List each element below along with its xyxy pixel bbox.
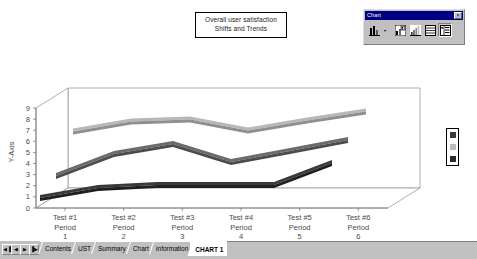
y-tick-label: 8 xyxy=(26,115,30,124)
chart-type-icon xyxy=(369,25,380,36)
x-tick-label: 4 xyxy=(239,232,243,239)
chart-toolbar-titlebar[interactable]: Chart × xyxy=(365,11,463,20)
y-tick-label: 2 xyxy=(26,181,30,190)
sheet-tab-label: Chart xyxy=(133,245,149,252)
y-tick-label: 4 xyxy=(26,159,30,168)
x-tick-label: 1 xyxy=(63,232,67,239)
sheet-nav-buttons: ◀▐ ◀ ▶ ▐▶ xyxy=(0,241,38,255)
y-tick-label: 1 xyxy=(26,192,30,201)
x-tick-label: 2 xyxy=(122,232,126,239)
chart-type-dropdown-arrow[interactable]: ▾ xyxy=(382,23,387,37)
x-tick-label: Period xyxy=(171,223,193,232)
by-column-button[interactable] xyxy=(408,23,422,37)
legend-button[interactable] xyxy=(393,23,407,37)
x-tick-label: Period xyxy=(113,223,135,232)
x-tick-label: 5 xyxy=(298,232,302,239)
sheet-tab-summary[interactable]: Summary xyxy=(93,241,130,254)
x-tick-label: Period xyxy=(289,223,311,232)
y-tick-label: 3 xyxy=(26,170,30,179)
chart-left-wall xyxy=(36,88,68,208)
x-tick-label: Test #4 xyxy=(229,213,253,222)
x-tick-label: Test #6 xyxy=(346,213,370,222)
x-tick-label: Test #2 xyxy=(112,213,136,222)
x-tick-label: Test #1 xyxy=(53,213,77,222)
chart-title-box[interactable]: Overall user satisfaction Shifts and Tre… xyxy=(195,12,287,38)
sheet-tab-chart-1[interactable]: CHART 1 xyxy=(190,241,227,256)
chart-toolbar-button-row: ▾ xyxy=(364,21,464,37)
by-column-icon xyxy=(410,25,421,36)
y-tick-label: 7 xyxy=(26,126,30,135)
x-tick-label: 3 xyxy=(180,232,184,239)
by-row-button[interactable] xyxy=(438,23,452,37)
legend-key-series-2[interactable] xyxy=(450,144,456,150)
y-axis-tick-labels: 9 8 7 6 5 4 3 2 1 0 xyxy=(26,104,30,213)
x-tick-label: Test #5 xyxy=(288,213,312,222)
chart-plot-area[interactable]: 9 8 7 6 5 4 3 2 1 0 Y-Axis Test #1 Perio… xyxy=(0,40,477,239)
sheet-tabs: Contents UST Summary Chart Information C… xyxy=(38,241,225,256)
tab-bar-filler xyxy=(227,241,477,255)
sheet-tab-information[interactable]: Information xyxy=(151,241,193,254)
y-tick-label: 6 xyxy=(26,137,30,146)
sheet-tab-label: CHART 1 xyxy=(195,246,223,253)
by-row-icon xyxy=(440,25,451,36)
chart-back-wall xyxy=(68,88,420,188)
x-axis-tick-labels: Test #1 Period 1 Test #2 Period 2 Test #… xyxy=(53,213,370,239)
x-tick-label: Period xyxy=(347,223,369,232)
x-tick-label: Period xyxy=(230,223,252,232)
legend-key-series-1[interactable] xyxy=(450,156,456,162)
sheet-tab-label: Summary xyxy=(98,245,126,252)
x-tick-label: Test #3 xyxy=(170,213,194,222)
chart-title-line-2: Shifts and Trends xyxy=(215,25,267,34)
chart-title-line-1: Overall user satisfaction xyxy=(205,16,277,25)
y-tick-label: 5 xyxy=(26,148,30,157)
y-tick-label: 0 xyxy=(26,204,30,213)
legend-icon xyxy=(395,25,406,36)
chart-legend[interactable] xyxy=(446,128,459,166)
sheet-tab-label: Information xyxy=(156,245,189,252)
data-table-icon xyxy=(425,25,436,36)
chart-type-button[interactable] xyxy=(367,23,381,37)
x-tick-label: 6 xyxy=(356,232,360,239)
chart-toolbar-title: Chart xyxy=(366,11,381,20)
legend-key-series-3[interactable] xyxy=(450,132,456,138)
data-table-button[interactable] xyxy=(423,23,437,37)
close-icon[interactable]: × xyxy=(454,12,462,19)
x-tick-label: Period xyxy=(54,223,76,232)
y-tick-label: 9 xyxy=(26,104,30,113)
sheet-tab-contents[interactable]: Contents xyxy=(40,241,75,254)
y-axis-title: Y-Axis xyxy=(7,141,16,162)
sheet-tab-label: UST xyxy=(78,245,91,252)
sheet-tab-bar: ◀▐ ◀ ▶ ▐▶ Contents UST Summary Chart Inf… xyxy=(0,240,477,259)
sheet-tab-label: Contents xyxy=(45,245,71,252)
